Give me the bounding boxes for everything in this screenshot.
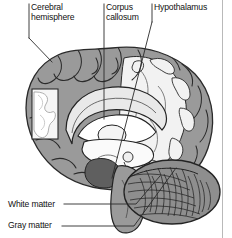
page-column-rule <box>222 0 223 238</box>
label-cerebral-hemisphere: Cerebral hemisphere <box>31 2 74 22</box>
label-hypothalamus: Hypothalamus <box>154 2 207 12</box>
label-white-matter: White matter <box>8 199 55 209</box>
leader-cerebral-hemisphere-elbow <box>29 38 52 62</box>
label-corpus-callosum: Corpus callosum <box>106 2 139 22</box>
label-gray-matter: Gray matter <box>8 220 52 230</box>
cerebellum-arbor-vitae <box>124 160 220 224</box>
white-matter-inset-window <box>32 89 58 139</box>
brain-anatomy-figure: Cerebral hemisphere Corpus callosum Hypo… <box>0 0 232 238</box>
